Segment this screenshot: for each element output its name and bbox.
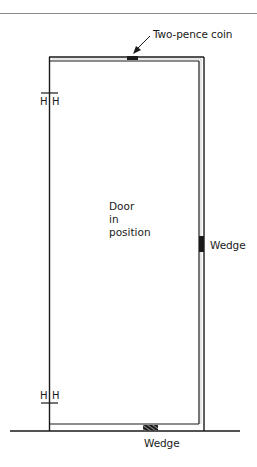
- upper-hinge-right-label: H: [52, 97, 60, 107]
- upper-hinge-left-label: H: [40, 97, 48, 107]
- coin-label: Two-pence coin: [153, 29, 232, 40]
- door-in-position-label: Door in position: [109, 200, 151, 239]
- door-label-line-1: Door: [109, 200, 151, 213]
- bottom-wedge: [143, 425, 158, 431]
- bottom-wedge-label: Wedge: [144, 438, 180, 449]
- door-label-line-3: position: [109, 226, 151, 239]
- right-wedge: [199, 236, 204, 252]
- door-diagram: H H H H Two-pence coin Wedge Wedge Door …: [0, 0, 257, 467]
- door-label-line-2: in: [109, 213, 151, 226]
- lower-hinge-right-label: H: [52, 391, 60, 401]
- right-wedge-label: Wedge: [210, 240, 246, 251]
- door-frame: [49, 57, 204, 431]
- coin-arrow-icon: [133, 36, 150, 54]
- coin-shim: [127, 56, 138, 60]
- door-leaf: [50, 59, 201, 424]
- lower-hinge-left-label: H: [40, 391, 48, 401]
